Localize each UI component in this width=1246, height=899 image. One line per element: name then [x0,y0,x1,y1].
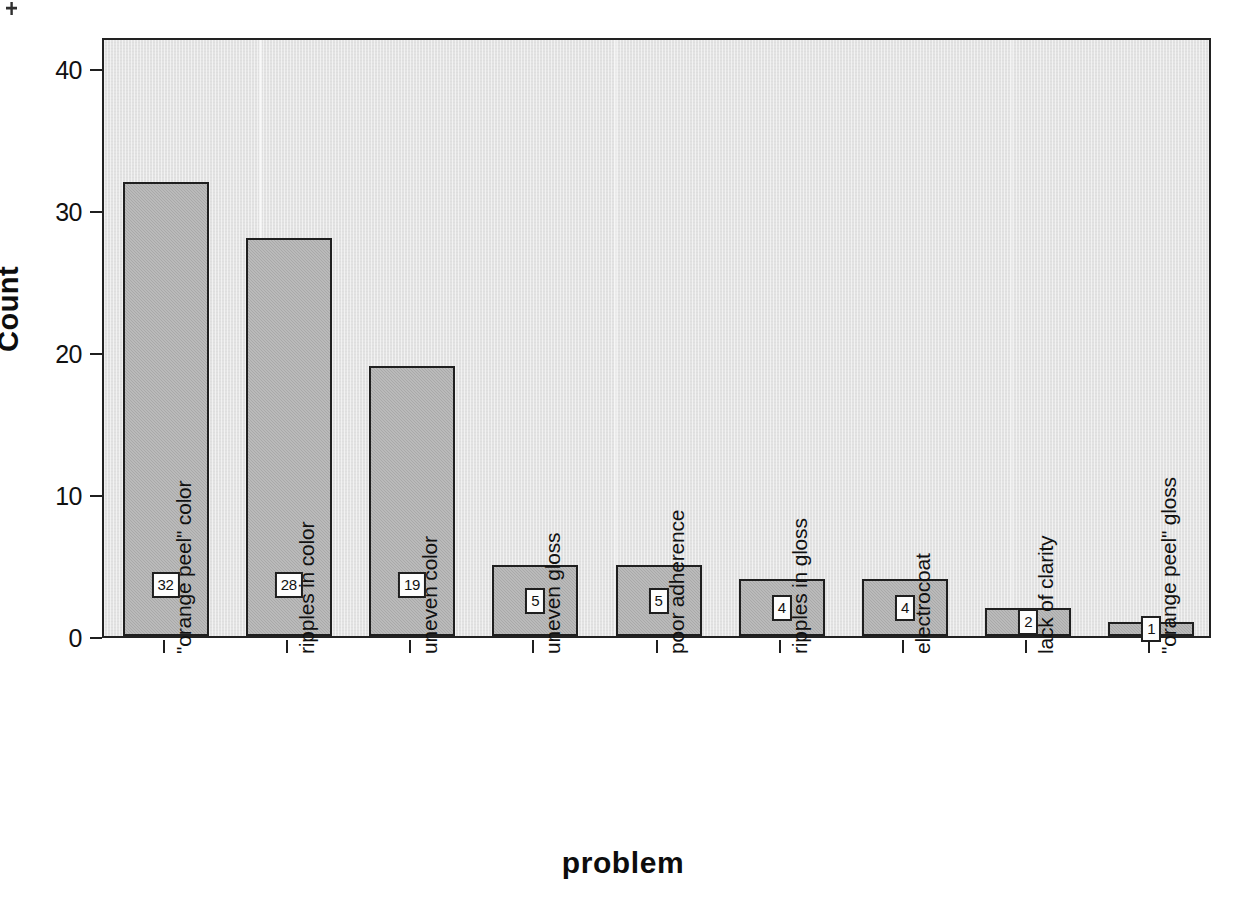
y-tick-label: 20 [0,340,82,369]
x-tick-mark [779,640,781,653]
x-tick-label: uneven color [418,536,442,654]
bar-chart: Count 010203040 322819554421 "orange pee… [0,0,1246,899]
y-tick-mark [90,353,102,355]
x-tick-label: "orange peel" gloss [1157,477,1181,654]
x-tick-label: lack of clarity [1034,536,1058,654]
x-tick-mark [1025,640,1027,653]
x-tick-label: uneven gloss [541,533,565,654]
scan-artifact-mark [6,2,17,15]
x-tick-mark [409,640,411,653]
y-tick-label: 40 [0,56,82,85]
x-tick-mark [902,640,904,653]
x-tick-label: poor adherence [665,510,689,654]
x-tick-mark [286,640,288,653]
x-tick-label: electrocoat [911,553,935,654]
x-axis-title: problem [0,846,1246,880]
y-tick-mark [90,637,102,639]
x-tick-mark [1148,640,1150,653]
y-tick-label: 10 [0,482,82,511]
y-tick-mark [90,69,102,71]
x-tick-mark [656,640,658,653]
x-tick-mark [532,640,534,653]
y-tick-label: 30 [0,198,82,227]
x-tick-label: ripples in color [295,522,319,654]
x-tick-label: "orange peel" color [172,481,196,654]
y-tick-label: 0 [0,624,82,653]
x-tick-label: ripples in gloss [788,518,812,654]
y-tick-mark [90,495,102,497]
x-tick-mark [163,640,165,653]
y-tick-mark [90,211,102,213]
